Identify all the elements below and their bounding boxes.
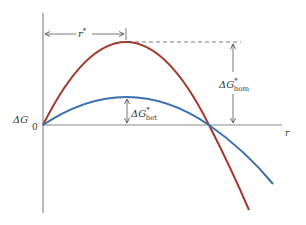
het-barrier-label: ΔG*het	[130, 106, 157, 122]
heterogeneous-curve	[43, 97, 273, 184]
x-axis-label: r	[285, 128, 290, 138]
nucleation-energy-diagram: r* ΔG*hom ΔG*het ΔG 0 r	[0, 0, 306, 225]
homogeneous-curve	[43, 42, 249, 210]
y-axis-label: ΔG	[12, 114, 28, 125]
origin-label: 0	[32, 122, 38, 132]
